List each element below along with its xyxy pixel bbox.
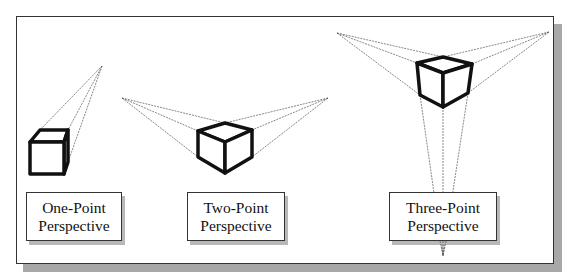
- three-point-bottom-vp: [0, 0, 574, 280]
